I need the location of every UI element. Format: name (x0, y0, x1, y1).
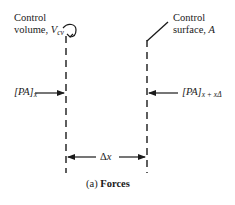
right-force-text: [PA] (182, 86, 202, 97)
delta-symbol: Δ (100, 151, 107, 162)
x-variable: x (107, 151, 112, 162)
figure-caption: (a) Forces (86, 178, 130, 190)
left-force-subscript: x (34, 90, 37, 99)
control-volume-label-line1: Control (14, 12, 64, 24)
control-volume-label: Control volume, Vcv (14, 12, 64, 39)
control-volume-subscript: cv (57, 28, 64, 37)
control-surface-pointer-line (147, 22, 168, 41)
control-surface-label-line1: Control (173, 12, 215, 24)
left-force-text: [PA] (14, 86, 34, 97)
control-volume-label-line2: volume, (14, 24, 51, 35)
control-surface-symbol: A (209, 24, 215, 35)
right-force-label: [PA]x + xΔ (182, 86, 222, 101)
caption-prefix: (a) (86, 178, 98, 189)
delta-x-label: Δx (100, 151, 111, 163)
control-volume-pointer-arrow (63, 24, 76, 37)
control-surface-label-line2: surface, (173, 24, 209, 35)
right-force-subscript: x + xΔ (202, 90, 222, 99)
left-force-label: [PA]x (14, 86, 37, 101)
caption-title: Forces (100, 178, 130, 189)
control-surface-label: Control surface, A (173, 12, 215, 36)
